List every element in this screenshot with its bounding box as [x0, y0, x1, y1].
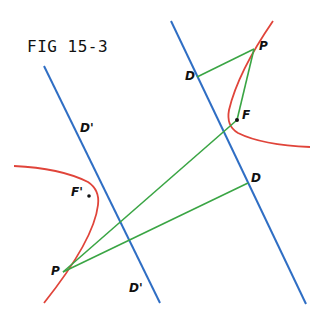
label-d-top: D — [185, 69, 195, 83]
hyperbola-left-branch — [14, 166, 98, 303]
label-d-prime-top: D' — [80, 121, 94, 135]
directrix-right — [171, 21, 306, 304]
label-p-right: P — [259, 39, 268, 53]
label-d-bottom: D — [251, 171, 261, 185]
focus-f-point — [235, 118, 239, 122]
label-d-prime-bottom: D' — [129, 281, 143, 295]
hyperbola-right-branch — [228, 21, 310, 147]
directrix-left — [44, 66, 160, 303]
label-f-prime: F' — [71, 185, 83, 199]
figure-15-3: FIG 15-3 D' D' D D P P F F' — [0, 0, 325, 321]
figure-title: FIG 15-3 — [27, 37, 108, 56]
focus-f-prime-point — [87, 194, 91, 198]
segment-p-to-d-top — [197, 49, 254, 77]
label-f: F — [242, 108, 250, 122]
label-p-left: P — [51, 264, 60, 278]
